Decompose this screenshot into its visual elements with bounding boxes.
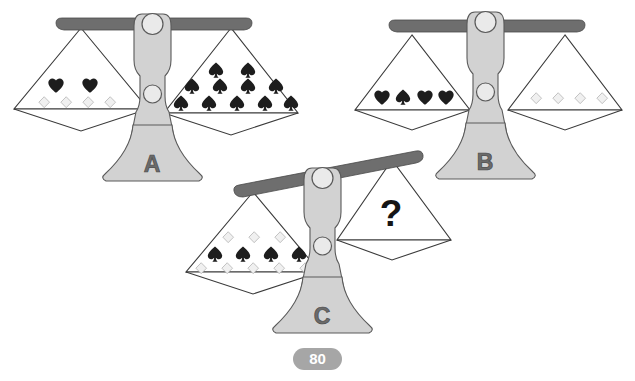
puzzle-canvas: A (0, 0, 635, 381)
post-b-lower-joint (477, 83, 495, 101)
page-number-badge: 80 (293, 348, 342, 370)
pan-b-right (508, 35, 622, 130)
pan-c-left-contents (196, 232, 311, 274)
symbol-group-spade (174, 62, 298, 110)
scale-a-letter: A (144, 151, 161, 177)
unknown-weight-label: ? (380, 193, 403, 234)
symbol-group-heart (48, 78, 97, 92)
pan-c-left (186, 192, 320, 294)
scale-c: ? C (186, 151, 451, 333)
scale-b-letter: B (477, 149, 494, 175)
post-c-top-joint (312, 168, 333, 189)
page-number-text: 80 (309, 350, 326, 367)
pan-a-left (14, 28, 148, 131)
scale-b: B (355, 12, 622, 180)
post-a-top-joint (142, 14, 163, 35)
post-b-top-joint (475, 12, 496, 33)
balance-scales-scene: A (0, 0, 635, 381)
pan-a-right-contents (174, 62, 298, 110)
pan-b-right-contents (531, 93, 608, 104)
symbol-group-diamond (39, 97, 116, 108)
pan-a-left-contents (39, 78, 116, 107)
pan-b-left-contents (374, 89, 453, 104)
post-c-lower-joint (314, 237, 332, 255)
scale-c-letter: C (314, 303, 331, 329)
post-a-lower-joint (144, 85, 162, 103)
pan-b-left (355, 35, 470, 130)
scale-a: A (14, 14, 298, 182)
symbol-group-spade (208, 246, 306, 261)
symbol-group-diamond-top (223, 232, 286, 243)
pan-a-right (164, 28, 298, 135)
